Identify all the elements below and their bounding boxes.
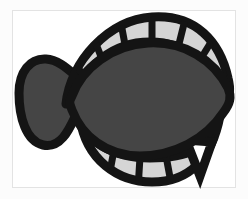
flatfish-figure [0, 0, 248, 199]
artboard: Stylized black-outlined flatfish with da… [0, 0, 248, 199]
